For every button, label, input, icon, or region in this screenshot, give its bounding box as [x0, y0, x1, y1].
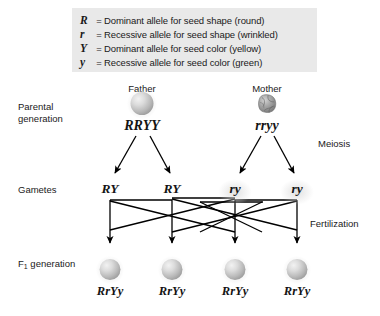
f1-suffix: generation — [28, 258, 76, 269]
legend-equals: = — [94, 56, 104, 70]
fertilization-line-group — [110, 198, 297, 243]
legend-symbol: R — [80, 13, 94, 27]
process-label-meiosis: Meiosis — [318, 138, 350, 150]
genotype-father: RRYY — [124, 118, 160, 134]
legend-description: Dominant allele for seed color (yellow) — [104, 42, 261, 56]
row-label-parental-generation: Parental generation — [18, 101, 63, 125]
gamete-genotype: RY — [101, 181, 118, 197]
gamete-genotype: ry — [229, 181, 240, 197]
round-seed-icon — [162, 259, 183, 280]
legend-row: r = Recessive allele for seed shape (wri… — [80, 27, 311, 41]
round-seed-icon — [287, 259, 308, 280]
wrinkled-seed-icon — [257, 93, 278, 114]
f1-genotype: RrYy — [222, 284, 248, 299]
legend-symbol: r — [80, 27, 94, 41]
legend-description: Recessive allele for seed color (green) — [104, 56, 262, 70]
row-label-line2: generation — [18, 113, 63, 125]
legend-equals: = — [94, 14, 104, 28]
process-label-fertilization: Fertilization — [310, 218, 359, 230]
legend-symbol: y — [80, 55, 94, 69]
genetics-dihybrid-cross-diagram: R = Dominant allele for seed shape (roun… — [0, 0, 380, 316]
legend-description: Recessive allele for seed shape (wrinkle… — [104, 28, 278, 42]
gamete-genotype: RY — [163, 181, 180, 197]
meiosis-arrow-group-father — [115, 136, 170, 173]
round-seed-icon — [131, 92, 154, 115]
f1-genotype: RrYy — [284, 284, 310, 299]
f1-genotype: RrYy — [159, 284, 185, 299]
legend-equals: = — [94, 42, 104, 56]
round-seed-icon — [225, 259, 246, 280]
f1-genotype: RrYy — [97, 284, 123, 299]
genotype-mother: rryy — [255, 118, 278, 134]
legend-row: R = Dominant allele for seed shape (roun… — [80, 13, 311, 27]
row-label-gametes: Gametes — [18, 184, 57, 196]
meiosis-arrow-group-mother — [240, 136, 294, 173]
legend-row: Y = Dominant allele for seed color (yell… — [80, 41, 311, 55]
legend-row: y = Recessive allele for seed color (gre… — [80, 55, 311, 69]
row-label-f1-generation: F1 generation — [18, 258, 75, 273]
allele-legend: R = Dominant allele for seed shape (roun… — [72, 8, 317, 72]
row-label-line1: Parental — [18, 101, 63, 113]
round-seed-icon — [100, 259, 121, 280]
gamete-genotype: ry — [291, 181, 302, 197]
legend-description: Dominant allele for seed shape (round) — [104, 14, 264, 28]
legend-symbol: Y — [80, 41, 94, 55]
legend-equals: = — [94, 28, 104, 42]
